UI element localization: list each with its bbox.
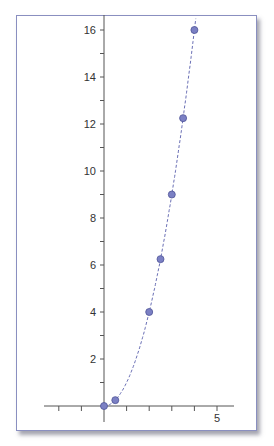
y-tick-label: 8 [90, 212, 96, 224]
data-point [191, 27, 198, 34]
y-tick-label: 6 [90, 259, 96, 271]
data-point [168, 191, 175, 198]
data-point [180, 115, 187, 122]
data-point [146, 309, 153, 316]
data-point [157, 256, 164, 263]
y-tick-label: 10 [84, 165, 96, 177]
y-tick-label: 16 [84, 24, 96, 36]
data-point [112, 397, 119, 404]
scatter-plot: 5246810121416 [0, 0, 274, 446]
data-point [101, 403, 108, 410]
y-tick-label: 4 [90, 306, 96, 318]
y-tick-label: 12 [84, 118, 96, 130]
y-tick-label: 2 [90, 353, 96, 365]
y-tick-label: 14 [84, 71, 96, 83]
fit-curve [104, 19, 196, 406]
x-tick-label: 5 [214, 412, 220, 424]
